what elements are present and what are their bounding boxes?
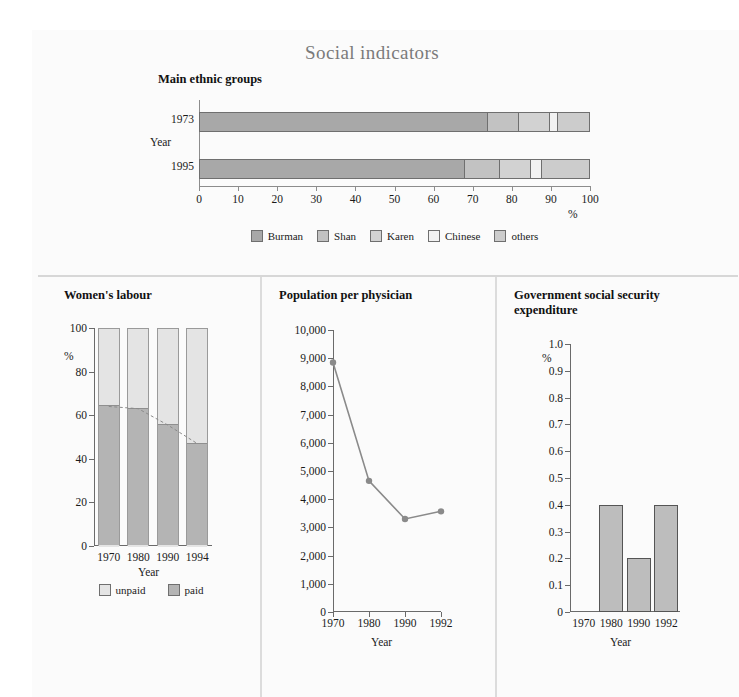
y-tick-label: 0.8 <box>549 392 563 404</box>
vertical-divider-right <box>495 277 497 697</box>
y-tick-label: 0 <box>81 540 87 552</box>
womens-y-axis-label: % <box>64 350 74 362</box>
x-tick-label: 1992 <box>655 617 678 629</box>
x-tick-label: 1980 <box>600 617 623 629</box>
x-tick <box>199 186 200 191</box>
legend-swatch <box>370 230 382 242</box>
data-point[interactable] <box>402 516 408 522</box>
legend-item-karen[interactable]: Karen <box>370 230 414 242</box>
y-tick-label: 0.1 <box>549 579 563 591</box>
legend-label: Chinese <box>445 230 480 242</box>
data-point[interactable] <box>438 508 444 514</box>
government-plot-area: 00.10.20.30.40.50.60.70.80.91.0 19701980… <box>570 344 680 612</box>
stacked-segment-others[interactable] <box>558 113 589 131</box>
stacked-segment-others[interactable] <box>542 160 589 178</box>
government-bar-1990[interactable] <box>627 558 651 612</box>
stacked-segment-shan[interactable] <box>488 113 519 131</box>
y-tick-label: 5,000 <box>300 465 326 477</box>
y-tick <box>565 398 570 399</box>
y-tick <box>565 585 570 586</box>
x-tick <box>277 186 278 191</box>
data-point[interactable] <box>366 478 372 484</box>
population-plot-area: 01,0002,0003,0004,0005,0006,0007,0008,00… <box>333 330 441 612</box>
ethnic-row-label-1973: 1973 <box>150 113 194 125</box>
x-tick <box>434 186 435 191</box>
x-tick-label: 40 <box>350 193 362 205</box>
stacked-bar-1995[interactable] <box>199 159 590 179</box>
x-tick-label: 1990 <box>627 617 650 629</box>
ethnic-x-axis-unit: % <box>568 208 578 220</box>
stacked-segment-karen[interactable] <box>500 160 531 178</box>
population-chart-title: Population per physician <box>279 288 489 303</box>
ethnic-row-label-1995: 1995 <box>150 160 194 172</box>
ethnic-groups-chart: Main ethnic groups 1973 Year 1995 010203… <box>150 72 620 262</box>
stacked-segment-chinese[interactable] <box>531 160 543 178</box>
legend-label: Karen <box>387 230 414 242</box>
womens-legend-item-paid[interactable]: paid <box>168 584 204 596</box>
legend-item-chinese[interactable]: Chinese <box>428 230 480 242</box>
x-tick <box>316 186 317 191</box>
legend-swatch <box>317 230 329 242</box>
y-tick-label: 80 <box>76 366 88 378</box>
x-tick <box>551 186 552 191</box>
data-point[interactable] <box>330 359 336 365</box>
x-tick-label: 1980 <box>358 617 381 629</box>
government-expenditure-chart: Government social security expenditure 0… <box>512 288 727 668</box>
government-bar-1980[interactable] <box>599 505 623 612</box>
womens-x-axis-label: Year <box>138 566 159 578</box>
legend-label: unpaid <box>116 584 146 596</box>
y-tick-label: 60 <box>76 409 88 421</box>
x-tick-label: 1990 <box>394 617 417 629</box>
ethnic-legend: BurmanShanKarenChineseothers <box>199 230 590 242</box>
stacked-segment-chinese[interactable] <box>550 113 558 131</box>
x-tick-label: 1990 <box>156 551 179 563</box>
y-tick <box>565 478 570 479</box>
legend-item-shan[interactable]: Shan <box>317 230 356 242</box>
x-tick-label: 60 <box>428 193 440 205</box>
y-tick-label: 0 <box>557 606 563 618</box>
y-tick <box>565 505 570 506</box>
x-tick <box>238 186 239 191</box>
y-tick <box>565 558 570 559</box>
x-tick-label: 30 <box>311 193 323 205</box>
womens-legend-item-unpaid[interactable]: unpaid <box>99 584 146 596</box>
figure-page: Social indicators Main ethnic groups 197… <box>0 0 739 697</box>
legend-item-burman[interactable]: Burman <box>251 230 303 242</box>
y-tick-label: 0.5 <box>549 472 563 484</box>
x-tick-label: 1980 <box>127 551 150 563</box>
legend-label: Shan <box>334 230 356 242</box>
ethnic-plot-area <box>199 102 590 184</box>
stacked-segment-burman[interactable] <box>200 160 465 178</box>
stacked-segment-burman[interactable] <box>200 113 488 131</box>
womens-trend-dashed-line <box>94 328 212 546</box>
y-tick-label: 0.2 <box>549 552 563 564</box>
y-tick <box>565 344 570 345</box>
x-tick-label: 1994 <box>186 551 209 563</box>
y-tick-label: 0.3 <box>549 526 563 538</box>
stacked-segment-karen[interactable] <box>519 113 550 131</box>
y-tick-label: 8,000 <box>300 380 326 392</box>
government-x-axis-label: Year <box>610 636 631 648</box>
stacked-segment-shan[interactable] <box>465 160 500 178</box>
legend-label: others <box>511 230 538 242</box>
y-tick-label: 20 <box>76 496 88 508</box>
y-tick-label: 2,000 <box>300 550 326 562</box>
population-line-series <box>333 330 441 612</box>
legend-swatch <box>428 230 440 242</box>
legend-label: paid <box>185 584 204 596</box>
stacked-bar-1973[interactable] <box>199 112 590 132</box>
legend-swatch <box>168 584 180 596</box>
ethnic-chart-title: Main ethnic groups <box>158 72 262 87</box>
y-tick-label: 9,000 <box>300 352 326 364</box>
legend-swatch <box>99 584 111 596</box>
womens-legend: unpaidpaid <box>56 584 246 596</box>
x-tick-label: 1970 <box>572 617 595 629</box>
y-tick-label: 1.0 <box>549 338 563 350</box>
vertical-divider-left <box>260 277 262 697</box>
womens-labour-chart: Women's labour 020406080100 197019801990… <box>42 288 257 668</box>
x-tick <box>590 186 591 191</box>
government-bar-1992[interactable] <box>654 505 678 612</box>
legend-item-others[interactable]: others <box>494 230 538 242</box>
y-tick-label: 6,000 <box>300 437 326 449</box>
y-tick-label: 100 <box>70 322 87 334</box>
